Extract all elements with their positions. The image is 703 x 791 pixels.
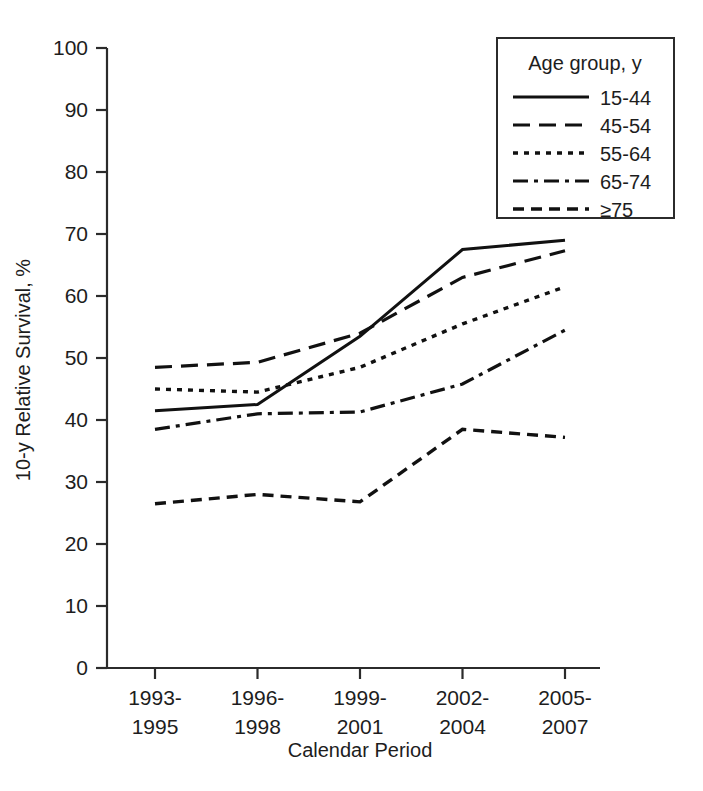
x-tick-label: 2001 [337, 715, 384, 738]
y-tick-label: 80 [65, 160, 88, 183]
y-tick-label: 0 [76, 656, 88, 679]
y-axis-tick-labels: 0102030405060708090100 [53, 36, 88, 679]
y-tick-label: 50 [65, 346, 88, 369]
y-tick-label: 10 [65, 594, 88, 617]
data-series-group [155, 240, 565, 504]
y-tick-label: 40 [65, 408, 88, 431]
x-tick-label: 1998 [234, 715, 281, 738]
legend-title: Age group, y [528, 52, 641, 74]
legend-label-gte75: ≥75 [600, 199, 633, 221]
y-tick-label: 20 [65, 532, 88, 555]
x-axis-title: Calendar Period [288, 739, 433, 761]
y-tick-label: 30 [65, 470, 88, 493]
x-tick-label: 1995 [132, 715, 179, 738]
x-tick-label: 2002- [436, 686, 490, 709]
x-axis-ticks [155, 668, 565, 679]
x-tick-label: 1996- [231, 686, 285, 709]
figure-container: 0102030405060708090100 1993-19951996-199… [0, 0, 703, 791]
series-line-55-64 [155, 287, 565, 392]
y-tick-label: 70 [65, 222, 88, 245]
y-axis-title: 10-y Relative Survival, % [12, 259, 34, 482]
chart-legend: Age group, y 15-4445-5455-6465-74≥75 [497, 38, 674, 221]
legend-label-65-74: 65-74 [600, 171, 651, 193]
x-axis-tick-labels: 1993-19951996-19981999-20012002-20042005… [128, 686, 592, 738]
x-tick-label: 2005- [538, 686, 592, 709]
series-line-gte75 [155, 429, 565, 503]
x-tick-label: 1993- [128, 686, 182, 709]
y-axis-ticks [96, 48, 107, 668]
legend-label-15-44: 15-44 [600, 87, 651, 109]
legend-label-55-64: 55-64 [600, 143, 651, 165]
series-line-45-54 [155, 251, 565, 368]
x-tick-label: 2004 [439, 715, 486, 738]
legend-label-45-54: 45-54 [600, 115, 651, 137]
y-tick-label: 100 [53, 36, 88, 59]
y-tick-label: 90 [65, 98, 88, 121]
x-tick-label: 2007 [542, 715, 589, 738]
x-tick-label: 1999- [333, 686, 387, 709]
y-tick-label: 60 [65, 284, 88, 307]
line-chart: 0102030405060708090100 1993-19951996-199… [0, 0, 703, 791]
series-line-65-74 [155, 330, 565, 429]
